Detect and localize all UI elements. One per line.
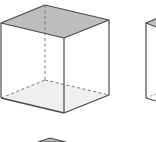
cube-diagram — [0, 0, 156, 142]
cube-2-hidden-bottom-edge — [146, 94, 156, 98]
cube-2-partial — [146, 17, 156, 101]
cube-1-top-face — [1, 5, 109, 38]
cube-2-top-face — [146, 17, 156, 27]
cube-1-bottom-face — [1, 80, 109, 113]
cube-1 — [1, 5, 109, 113]
cube-2-bottom-edge — [146, 98, 156, 101]
cube-3-partial — [38, 138, 66, 142]
cube-3-top-face — [38, 138, 66, 142]
